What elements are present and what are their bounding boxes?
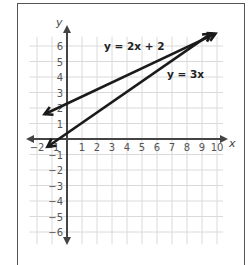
x-tick-label: 4 [124, 142, 130, 153]
x-tick-label: −2 [30, 142, 45, 153]
y-tick-label: 3 [57, 88, 63, 99]
equation-label-2x-plus-2: y = 2x + 2 [104, 40, 164, 52]
y-tick-label: −1 [48, 150, 63, 161]
equation-label-3x: y = 3x [167, 68, 204, 80]
y-tick-label: −2 [48, 165, 63, 176]
y-axis-label: y [55, 16, 63, 29]
x-tick-label: 9 [199, 142, 205, 153]
x-tick-label: 3 [109, 142, 115, 153]
y-tick-label: −6 [48, 227, 63, 238]
x-tick-label: 8 [184, 142, 190, 153]
y-tick-label: −3 [48, 181, 63, 192]
x-tick-label: 5 [139, 142, 145, 153]
x-tick-label: 6 [154, 142, 160, 153]
y-tick-label: 1 [57, 119, 63, 130]
y-tick-label: −4 [48, 196, 63, 207]
y-tick-label: 6 [57, 41, 63, 52]
x-axis-label: x [228, 137, 236, 150]
y-tick-label: 5 [57, 57, 63, 68]
y-tick-label: 4 [57, 72, 63, 83]
y-tick-label: −5 [48, 212, 63, 223]
x-tick-label: 2 [94, 142, 100, 153]
x-tick-label: 1 [79, 142, 85, 153]
x-tick-label: 7 [169, 142, 175, 153]
x-tick-label: 10 [211, 142, 224, 153]
